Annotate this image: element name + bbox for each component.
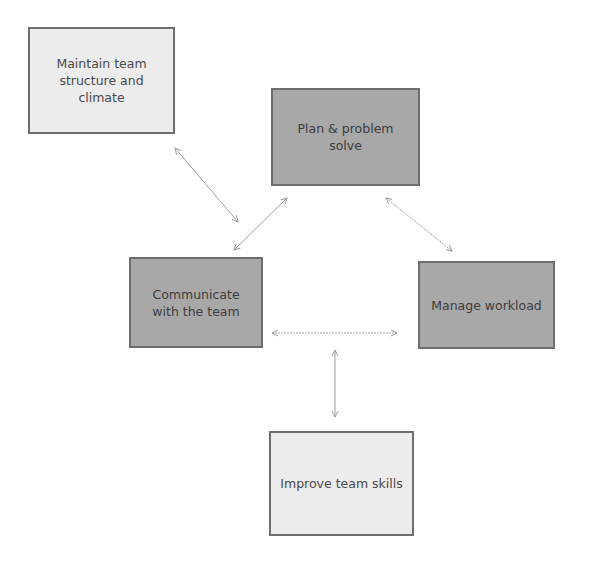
node-manage-workload: Manage workload [418, 261, 555, 349]
node-communicate-with-team: Communicate with the team [129, 257, 263, 348]
node-label: Communicate with the team [139, 286, 253, 320]
arrow-maintain-communicate [175, 148, 238, 222]
arrow-plan-communicate [234, 198, 287, 250]
node-improve-team-skills: Improve team skills [269, 431, 414, 536]
node-label: Improve team skills [280, 475, 402, 492]
node-plan-problem-solve: Plan & problem solve [271, 88, 420, 186]
node-maintain-team-structure: Maintain team structure and climate [28, 27, 175, 134]
node-label: Manage workload [431, 297, 542, 314]
arrow-plan-manage [386, 198, 452, 251]
node-label: Maintain team structure and climate [38, 55, 165, 106]
node-label: Plan & problem solve [281, 120, 410, 154]
